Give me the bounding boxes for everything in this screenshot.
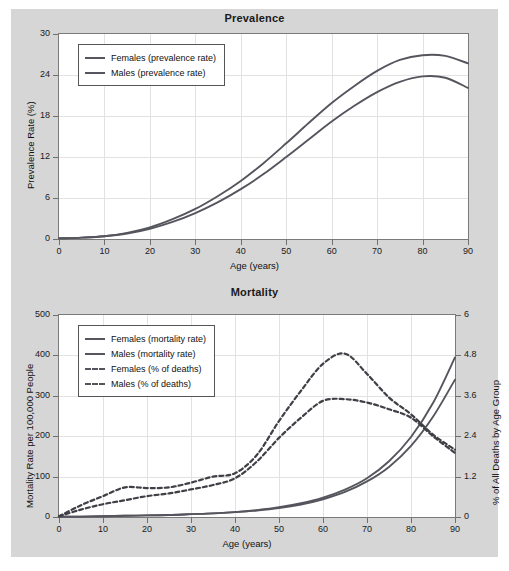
y-tick-mark [53, 75, 58, 76]
x-tick-mark [235, 518, 236, 523]
x-tick-mark [191, 518, 192, 523]
mortality-chart-title: Mortality [11, 286, 498, 298]
y-tick-mark-left [53, 517, 58, 518]
y-tick-mark [53, 34, 58, 35]
x-tick-mark [59, 240, 60, 245]
legend-item-label: Females (mortality rate) [111, 334, 206, 344]
y-tick-label-left: 400 [18, 349, 50, 359]
figure-panel: Prevalence 0612182430 010203040506070809… [11, 9, 498, 557]
curve-males-of-deaths [59, 399, 455, 517]
x-tick-label: 60 [317, 246, 347, 256]
x-tick-label: 10 [89, 246, 119, 256]
legend-item: Males (% of deaths) [85, 376, 206, 391]
x-tick-label: 90 [453, 246, 483, 256]
legend-item: Females (prevalence rate) [85, 50, 216, 65]
curve-males-prevalence-rate [59, 76, 468, 238]
x-tick-mark [279, 518, 280, 523]
y-tick-mark-left [53, 315, 58, 316]
mortality-legend: Females (mortality rate)Males (mortality… [78, 325, 215, 397]
x-tick-mark [286, 240, 287, 245]
legend-item: Males (mortality rate) [85, 346, 206, 361]
prevalence-legend: Females (prevalence rate)Males (prevalen… [78, 44, 225, 86]
y-tick-mark-right [456, 396, 461, 397]
y-tick-label-right: 6 [464, 309, 469, 319]
y-tick-label-right: 0 [464, 511, 469, 521]
x-tick-mark [195, 240, 196, 245]
legend-line-swatch [85, 72, 105, 74]
x-tick-label: 20 [135, 246, 165, 256]
y-tick-label: 6 [18, 192, 50, 202]
y-tick-mark-right [456, 517, 461, 518]
legend-item-label: Males (mortality rate) [111, 349, 196, 359]
x-tick-label: 0 [44, 246, 74, 256]
x-tick-label: 30 [180, 246, 210, 256]
x-tick-mark [455, 518, 456, 523]
x-tick-label: 0 [44, 524, 74, 534]
y-tick-mark-left [53, 436, 58, 437]
y-tick-label-right: 3.6 [464, 390, 477, 400]
mortality-chart: Mortality 0100200300400500 01.22.43.64.8… [11, 283, 498, 557]
y-tick-label-right: 1.2 [464, 471, 477, 481]
x-tick-label: 40 [220, 524, 250, 534]
x-tick-label: 70 [352, 524, 382, 534]
y-tick-mark [53, 198, 58, 199]
legend-line-swatch [85, 57, 105, 59]
legend-item: Females (% of deaths) [85, 361, 206, 376]
legend-line-swatch [85, 338, 105, 340]
y-tick-label: 0 [18, 233, 50, 243]
x-tick-label: 50 [264, 524, 294, 534]
y-tick-mark-right [456, 477, 461, 478]
prevalence-chart: Prevalence 0612182430 010203040506070809… [11, 9, 498, 281]
x-tick-mark [147, 518, 148, 523]
y-tick-label-left: 0 [18, 511, 50, 521]
x-tick-label: 70 [362, 246, 392, 256]
x-tick-label: 10 [88, 524, 118, 534]
x-tick-mark [104, 240, 105, 245]
legend-item-label: Females (prevalence rate) [111, 53, 216, 63]
x-tick-mark [367, 518, 368, 523]
legend-item-label: Females (% of deaths) [111, 364, 202, 374]
x-tick-mark [241, 240, 242, 245]
x-tick-label: 50 [271, 246, 301, 256]
legend-line-swatch [85, 353, 105, 355]
x-tick-label: 20 [132, 524, 162, 534]
legend-item-label: Males (% of deaths) [111, 379, 191, 389]
legend-item: Males (prevalence rate) [85, 65, 216, 80]
y-tick-label: 30 [18, 28, 50, 38]
y-tick-label-right: 2.4 [464, 430, 477, 440]
x-tick-mark [103, 518, 104, 523]
prevalence-x-axis-title: Age (years) [11, 260, 498, 271]
y-tick-mark-left [53, 396, 58, 397]
prevalence-y-axis-title: Prevalence Rate (%) [25, 101, 36, 189]
y-tick-label-left: 500 [18, 309, 50, 319]
legend-item: Females (mortality rate) [85, 331, 206, 346]
y-tick-mark [53, 239, 58, 240]
x-tick-label: 80 [396, 524, 426, 534]
x-tick-label: 40 [226, 246, 256, 256]
x-tick-label: 30 [176, 524, 206, 534]
y-tick-label: 24 [18, 69, 50, 79]
legend-line-swatch [85, 368, 105, 370]
x-tick-mark [423, 240, 424, 245]
legend-line-swatch [85, 383, 105, 385]
x-tick-label: 80 [408, 246, 438, 256]
legend-item-label: Males (prevalence rate) [111, 68, 206, 78]
x-tick-label: 60 [308, 524, 338, 534]
x-tick-mark [59, 518, 60, 523]
x-tick-mark [150, 240, 151, 245]
y-tick-mark-right [456, 436, 461, 437]
x-tick-mark [377, 240, 378, 245]
x-tick-mark [411, 518, 412, 523]
curve-males-mortality-rate [59, 380, 455, 517]
y-tick-mark-left [53, 477, 58, 478]
y-tick-mark-right [456, 315, 461, 316]
prevalence-chart-title: Prevalence [11, 12, 498, 24]
mortality-right-y-axis-title: % of All Deaths by Age Group [490, 380, 501, 505]
y-tick-mark-right [456, 355, 461, 356]
x-tick-label: 90 [440, 524, 470, 534]
x-tick-mark [323, 518, 324, 523]
x-tick-mark [468, 240, 469, 245]
y-tick-mark [53, 157, 58, 158]
mortality-left-y-axis-title: Mortality Rate per 100,000 People [24, 364, 35, 508]
y-tick-mark [53, 116, 58, 117]
